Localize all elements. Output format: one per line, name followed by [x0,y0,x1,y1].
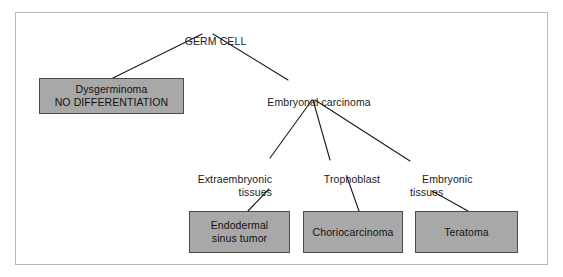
node-endodermal-sinus-tumor-box: Endodermal sinus tumor [189,211,290,253]
node-germ-cell: GERM CELL [172,22,247,61]
node-germ-cell-label: GERM CELL [185,35,247,47]
node-embryonic-tissues-label: Embryonic tissues [410,173,473,198]
node-teratoma-label: Teratoma [444,226,489,239]
node-endodermal-sinus-tumor-label: Endodermal sinus tumor [211,219,269,245]
node-extraembryonic-tissues-label: Extraembryonic tissues [198,173,272,198]
node-dysgerminoma-label: Dysgerminoma NO DIFFERENTIATION [55,83,169,109]
node-teratoma-box: Teratoma [415,211,518,253]
node-embryonal-carcinoma: Embryonal carcinoma [249,83,377,122]
node-trophoblast-label: Trophoblast [324,173,380,185]
node-embryonal-carcinoma-label: Embryonal carcinoma [267,96,370,108]
node-dysgerminoma-box: Dysgerminoma NO DIFFERENTIATION [39,78,184,114]
node-choriocarcinoma-label: Choriocarcinoma [313,226,394,239]
node-choriocarcinoma-box: Choriocarcinoma [303,211,403,253]
diagram-canvas: GERM CELL Dysgerminoma NO DIFFERENTIATIO… [0,0,563,277]
node-trophoblast: Trophoblast [306,160,386,199]
node-extraembryonic-tissues: Extraembryonic tissues [176,160,272,212]
node-embryonic-tissues: Embryonic tissues [410,160,500,212]
